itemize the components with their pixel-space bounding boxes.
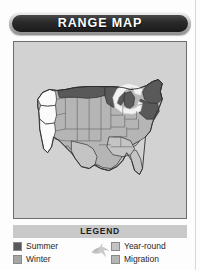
title-banner-plate: RANGE MAP (12, 15, 188, 32)
range-map-card: RANGE MAP (0, 0, 200, 270)
legend-heading: LEGEND (80, 227, 120, 236)
map-region-northeast (143, 80, 163, 104)
legend-item-migration[interactable]: Migration (111, 253, 189, 266)
legend-label-year-round: Year-round (124, 242, 166, 251)
map-panel[interactable] (13, 41, 187, 219)
map-region-california (40, 119, 56, 153)
legend-item-summer[interactable]: Summer (13, 240, 91, 253)
united-states-map-graphic[interactable] (14, 42, 186, 218)
flying-bird-icon (89, 241, 113, 263)
summer-swatch-icon (13, 242, 22, 251)
legend-item-year-round[interactable]: Year-round (111, 240, 189, 253)
year-round-swatch-icon (111, 242, 120, 251)
map-region-northern-plains (57, 87, 104, 99)
winter-swatch-icon (13, 255, 22, 264)
legend-label-migration: Migration (124, 255, 159, 264)
legend-column-left: Summer Winter (13, 240, 91, 266)
legend-header-bar: LEGEND (13, 225, 187, 238)
map-region-washington (38, 89, 57, 106)
title-banner: RANGE MAP (9, 12, 191, 35)
page-title: RANGE MAP (58, 17, 143, 30)
legend-label-winter: Winter (26, 255, 51, 264)
legend-column-right: Year-round Migration (111, 240, 189, 266)
legend: Summer Winter Year-round Migration (13, 240, 187, 266)
legend-item-winter[interactable]: Winter (13, 253, 91, 266)
migration-swatch-icon (111, 255, 120, 264)
page-divider-rule (195, 0, 196, 270)
legend-label-summer: Summer (26, 242, 58, 251)
